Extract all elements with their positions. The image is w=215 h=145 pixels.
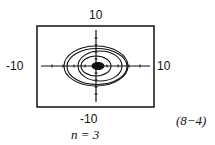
x-min-label: -10 bbox=[6, 59, 23, 73]
equation-ref: (8−4) bbox=[176, 113, 206, 129]
y-max-label: 10 bbox=[89, 8, 102, 22]
x-max-label: 10 bbox=[157, 59, 170, 73]
y-min-label: -10 bbox=[80, 112, 97, 126]
caption: n = 3 bbox=[71, 127, 99, 143]
